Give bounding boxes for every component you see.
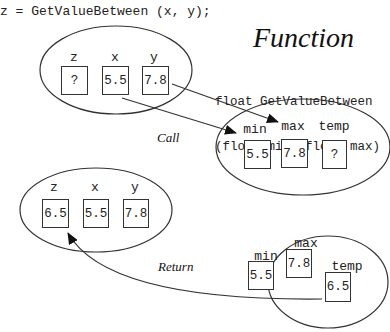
param-label-min: min <box>235 122 275 137</box>
function-title: Function <box>253 22 354 54</box>
call-label: Call <box>157 130 179 146</box>
var-label-y-after: y <box>115 180 155 195</box>
param-box-min-return: 5.5 <box>248 261 274 290</box>
local-box-temp: ? <box>322 140 347 169</box>
param-box-max-return: 7.8 <box>286 249 312 278</box>
signature-line-1: float GetValueBetween <box>215 95 380 110</box>
var-box-x-after: 5.5 <box>83 199 109 228</box>
local-box-temp-return: 6.5 <box>325 272 351 302</box>
arrow-temp-to-z <box>68 233 322 299</box>
var-box-y: 7.8 <box>142 66 169 95</box>
param-label-max: max <box>273 119 313 134</box>
param-box-min: 5.5 <box>244 140 271 169</box>
var-label-y: y <box>134 50 174 65</box>
return-label: Return <box>158 259 193 275</box>
local-label-temp: temp <box>314 119 354 134</box>
var-label-x-after: x <box>75 180 115 195</box>
var-label-z: z <box>54 50 94 65</box>
var-box-z-after: 6.5 <box>42 199 69 228</box>
call-statement: z = GetValueBetween (x, y); <box>0 4 211 19</box>
var-box-y-after: 7.8 <box>123 199 149 228</box>
var-box-z: ? <box>61 66 88 95</box>
var-label-z-after: z <box>34 180 74 195</box>
var-label-x: x <box>95 50 135 65</box>
param-box-max: 7.8 <box>281 139 308 168</box>
var-box-x: 5.5 <box>102 66 129 95</box>
